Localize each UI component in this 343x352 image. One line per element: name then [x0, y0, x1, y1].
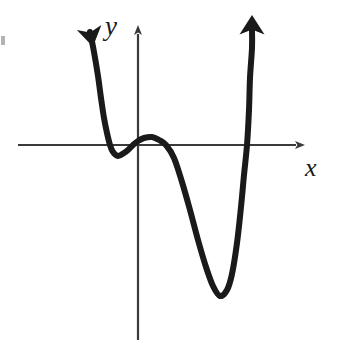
- figure-canvas: y x: [0, 0, 343, 352]
- curve-group: [90, 30, 252, 296]
- x-axis-label: x: [305, 155, 317, 181]
- axes-group: [18, 34, 296, 340]
- plot-svg: [0, 0, 343, 352]
- quartic-curve-path: [90, 30, 252, 296]
- y-axis-label: y: [105, 13, 117, 40]
